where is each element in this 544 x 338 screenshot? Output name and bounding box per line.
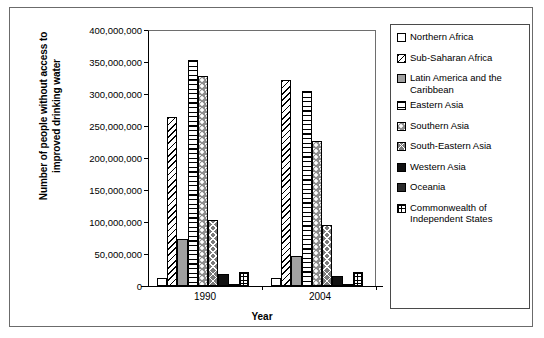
bar-group-container	[148, 30, 376, 286]
bar	[291, 256, 301, 286]
y-tick-label: 50,000,000	[64, 250, 142, 260]
bar	[157, 278, 167, 286]
legend-item[interactable]: Northern Africa	[397, 31, 524, 43]
legend-swatch-icon	[397, 101, 406, 110]
y-tick-label: 250,000,000	[64, 122, 142, 132]
legend-swatch-icon	[397, 74, 406, 83]
legend-item-label: Oceania	[410, 181, 445, 193]
bar	[177, 239, 187, 286]
legend-item-label: Sub-Saharan Africa	[410, 52, 492, 64]
y-tick-label: 200,000,000	[64, 154, 142, 164]
bar	[218, 274, 228, 286]
legend-item[interactable]: Sub-Saharan Africa	[397, 52, 524, 64]
bar	[271, 278, 281, 286]
legend-item[interactable]: Commonwealth of Independent States	[397, 202, 524, 225]
y-tick-label: 300,000,000	[64, 90, 142, 100]
bar	[343, 284, 353, 286]
x-axis-category-separator	[262, 286, 263, 290]
legend-item-label: Eastern Asia	[410, 99, 463, 111]
legend-swatch-icon	[397, 163, 406, 172]
legend-item-label: Western Asia	[410, 161, 466, 173]
y-tick-label: 100,000,000	[64, 218, 142, 228]
x-tick-label-1990: 1990	[170, 291, 240, 302]
legend-item-label: Northern Africa	[410, 31, 473, 43]
bar	[239, 272, 249, 286]
x-axis-title: Year	[148, 311, 376, 322]
legend-swatch-icon	[397, 54, 406, 63]
bar	[281, 80, 291, 286]
bar	[312, 141, 322, 286]
legend-swatch-icon	[397, 142, 406, 151]
legend-item-label: Commonwealth of Independent States	[410, 202, 524, 225]
bar	[229, 284, 239, 286]
y-axis-title: Number of people without access to impro…	[37, 16, 63, 216]
bar	[332, 276, 342, 286]
bar	[353, 272, 363, 286]
chart-legend: Northern AfricaSub-Saharan AfricaLatin A…	[390, 24, 530, 309]
legend-item[interactable]: Oceania	[397, 181, 524, 193]
chart-frame: Number of people without access to impro…	[9, 7, 533, 327]
legend-item-label: Latin America and the Caribbean	[410, 72, 524, 95]
y-tick-label: 400,000,000	[64, 26, 142, 36]
legend-item-label: South-Eastern Asia	[410, 140, 491, 152]
bar	[198, 76, 208, 286]
x-axis-end-tick	[376, 286, 377, 290]
legend-swatch-icon	[397, 33, 406, 42]
legend-swatch-icon	[397, 204, 406, 213]
legend-swatch-icon	[397, 183, 406, 192]
bar	[322, 225, 332, 286]
bar	[208, 220, 218, 286]
y-tick-label: 0	[64, 282, 142, 292]
legend-item[interactable]: Western Asia	[397, 161, 524, 173]
legend-swatch-icon	[397, 122, 406, 131]
y-tick-label: 350,000,000	[64, 58, 142, 68]
legend-item[interactable]: Southern Asia	[397, 120, 524, 132]
bar	[188, 60, 198, 286]
legend-item-label: Southern Asia	[410, 120, 469, 132]
legend-item[interactable]: Eastern Asia	[397, 99, 524, 111]
y-axis-tick-labels: 050,000,000100,000,000150,000,000200,000…	[62, 30, 142, 286]
legend-item[interactable]: Latin America and the Caribbean	[397, 72, 524, 95]
x-tick-label-2004: 2004	[285, 291, 355, 302]
y-tick-label: 150,000,000	[64, 186, 142, 196]
bar	[302, 91, 312, 286]
legend-item[interactable]: South-Eastern Asia	[397, 140, 524, 152]
bar	[167, 117, 177, 286]
